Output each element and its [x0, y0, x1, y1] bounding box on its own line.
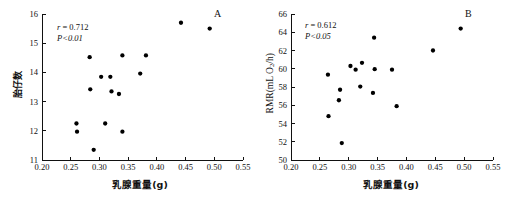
data-point — [394, 104, 398, 108]
data-point — [360, 61, 364, 65]
data-point — [326, 73, 330, 77]
data-point — [92, 148, 96, 152]
x-tick-label: 0.25 — [63, 162, 78, 172]
data-point — [337, 98, 341, 102]
data-point — [431, 48, 435, 52]
data-point — [144, 53, 148, 57]
data-point — [120, 130, 124, 134]
panel-b: B r = 0.612 P<0.05 RMR(mL O2/h) 乳腺重量(g) … — [253, 0, 505, 200]
data-point — [348, 64, 352, 68]
data-point — [138, 71, 142, 75]
x-tick-label: 0.35 — [121, 162, 136, 172]
y-tick-label: 14 — [30, 67, 39, 77]
data-point — [338, 88, 342, 92]
panel-b-plot: 0.200.250.300.350.400.450.500.5550525456… — [253, 0, 505, 200]
data-point — [108, 75, 112, 79]
panel-a: A r = 0.712 P<0.01 胎仔数 乳腺重量(g) 0.200.250… — [0, 0, 252, 200]
x-tick-label: 0.35 — [370, 162, 385, 172]
data-point — [340, 141, 344, 145]
data-point — [99, 75, 103, 79]
y-tick-label: 60 — [279, 64, 288, 74]
y-tick-label: 58 — [279, 82, 288, 92]
data-point — [373, 67, 377, 71]
data-point — [75, 130, 79, 134]
data-point — [371, 91, 375, 95]
data-point — [120, 53, 124, 57]
y-tick-label: 62 — [279, 46, 288, 56]
y-tick-label: 15 — [30, 38, 39, 48]
y-tick-label: 66 — [279, 9, 288, 19]
x-tick-label: 0.50 — [207, 162, 222, 172]
x-tick-label: 0.55 — [236, 162, 251, 172]
x-tick-label: 0.40 — [149, 162, 164, 172]
data-point — [208, 26, 212, 30]
panel-a-plot: 0.200.250.300.350.400.450.500.5511121314… — [0, 0, 252, 200]
x-tick-label: 0.30 — [341, 162, 356, 172]
x-tick-label: 0.55 — [486, 162, 501, 172]
x-tick-label: 0.40 — [399, 162, 414, 172]
data-point — [74, 121, 78, 125]
data-point — [103, 121, 107, 125]
y-tick-label: 16 — [30, 9, 39, 19]
data-point — [109, 89, 113, 93]
data-point — [88, 55, 92, 59]
x-tick-label: 0.50 — [457, 162, 472, 172]
data-point — [372, 36, 376, 40]
data-point — [179, 21, 183, 25]
y-tick-label: 13 — [30, 97, 39, 107]
axis-lines — [291, 14, 493, 160]
axis-lines — [42, 14, 243, 160]
data-point — [353, 68, 357, 72]
y-tick-label: 64 — [279, 27, 288, 37]
y-tick-label: 54 — [279, 119, 288, 129]
data-point — [117, 92, 121, 96]
y-tick-label: 52 — [279, 137, 288, 147]
x-tick-label: 0.45 — [428, 162, 443, 172]
y-tick-label: 12 — [30, 126, 39, 136]
y-tick-label: 56 — [279, 100, 288, 110]
x-tick-label: 0.30 — [92, 162, 107, 172]
data-point — [390, 68, 394, 72]
x-tick-label: 0.25 — [312, 162, 327, 172]
y-tick-label: 11 — [30, 155, 38, 165]
data-point — [88, 87, 92, 91]
x-tick-label: 0.45 — [178, 162, 193, 172]
data-point — [358, 84, 362, 88]
figure-container: A r = 0.712 P<0.01 胎仔数 乳腺重量(g) 0.200.250… — [0, 0, 505, 200]
data-point — [459, 26, 463, 30]
y-tick-label: 50 — [279, 155, 288, 165]
data-point — [326, 114, 330, 118]
